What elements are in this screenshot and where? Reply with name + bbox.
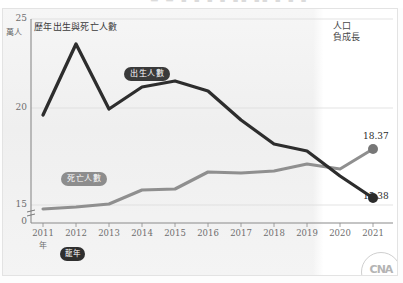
x-tick-2019: 2019 bbox=[290, 228, 324, 238]
y-tick-20: 20 bbox=[5, 102, 27, 112]
chart-screenshot: ▬ ▬ ▪ ▪ ▪ ▪ ▪▪ ▪▪ ▪ ▪ ▪ bbox=[0, 0, 403, 283]
x-tick-2020: 2020 bbox=[323, 228, 357, 238]
x-tick-marks bbox=[43, 223, 373, 227]
y-tick-25: 25 bbox=[5, 13, 27, 23]
endpoint-label-deaths: 18.37 bbox=[363, 131, 389, 141]
plot-area: 萬人 25 20 15 0 歷年出生與死亡人數 人口 負成長 出生人數 死亡人數… bbox=[2, 8, 398, 276]
y-tick-15: 15 bbox=[5, 199, 27, 209]
x-tick-2013: 2013 bbox=[92, 228, 126, 238]
top-strip-ghost-text: ▬ ▬ ▪ ▪ ▪ ▪ ▪▪ ▪▪ ▪ ▪ ▪ bbox=[150, 0, 309, 4]
top-cropped-strip: ▬ ▬ ▪ ▪ ▪ ▪ ▪▪ ▪▪ ▪ ▪ ▪ bbox=[0, 0, 403, 8]
series-badge-births: 出生人數 bbox=[124, 67, 170, 81]
y-tick-0: 0 bbox=[5, 216, 27, 226]
endpoint-marker-deaths bbox=[368, 144, 378, 154]
x-tick-2016: 2016 bbox=[191, 228, 225, 238]
x-tick-2012: 2012 bbox=[59, 228, 93, 238]
x-axis-unit-label: 年 bbox=[26, 239, 60, 250]
series-badge-deaths: 死亡人數 bbox=[61, 172, 107, 186]
watermark-main-text: CNA bbox=[370, 263, 393, 276]
y-axis-unit-label: 萬人 bbox=[6, 28, 22, 37]
x-tick-2011: 2011 bbox=[26, 228, 60, 238]
negative-growth-note-line2: 負成長 bbox=[333, 32, 360, 43]
chart-title: 歷年出生與死亡人數 bbox=[34, 20, 118, 33]
x-tick-2017: 2017 bbox=[224, 228, 258, 238]
x-tick-2015: 2015 bbox=[158, 228, 192, 238]
x-tick-2021: 2021 bbox=[356, 228, 390, 238]
dragon-year-badge: 龍年 bbox=[60, 247, 85, 261]
negative-growth-note-line1: 人口 bbox=[333, 21, 360, 32]
endpoint-label-births: 15.38 bbox=[363, 191, 389, 201]
negative-growth-note: 人口 負成長 bbox=[333, 21, 360, 43]
x-tick-2014: 2014 bbox=[125, 228, 159, 238]
x-tick-2018: 2018 bbox=[257, 228, 291, 238]
